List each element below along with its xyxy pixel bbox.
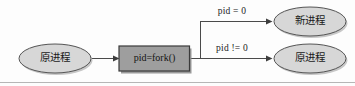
fork-flow-diagram: 原进程 pid=fork() 新进程 原进程 pid = 0 pid != 0 [0,0,355,86]
node-fork-call: pid=fork() [119,46,192,74]
edge-label-pid-nonzero: pid != 0 [216,43,248,53]
fork-box-label: pid=fork() [134,52,176,64]
node-parent-process: 原进程 [274,44,348,75]
child-process-label: 新进程 [295,14,327,26]
parent-process-label: 原进程 [295,52,327,63]
edge-label-pid-zero: pid = 0 [218,6,246,16]
arrowhead-into-child [266,19,273,25]
source-process-label: 原进程 [40,52,72,63]
node-child-process: 新进程 [274,7,348,38]
node-source-process: 原进程 [19,44,93,75]
arrowhead-into-parent [266,56,273,62]
diagram-canvas: 原进程 pid=fork() 新进程 原进程 pid = 0 pid != 0 [0,0,355,86]
